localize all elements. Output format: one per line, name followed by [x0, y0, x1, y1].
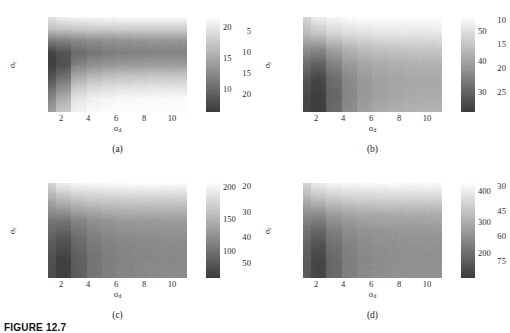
xtick-d-1: 4	[332, 280, 354, 289]
ylabel-b: σr	[263, 59, 285, 71]
cbar-c-tick-0: 200	[223, 183, 253, 192]
colorbar-a	[206, 17, 220, 112]
xtick-c-0: 2	[50, 280, 72, 289]
ytick-b-1-label: 15	[497, 40, 510, 49]
ytick-c-2-label: 40	[242, 233, 255, 242]
cbar-d-tick-1: 300	[478, 218, 508, 227]
colorbar-c	[206, 183, 220, 278]
xtick-c-4: 10	[161, 280, 183, 289]
ytick-d-2-label: 60	[497, 232, 510, 241]
colorbar-d	[461, 183, 475, 278]
xtick-b-4: 10	[416, 114, 438, 123]
panel-a-tag: (a)	[48, 144, 187, 154]
ylabel-c-sub: r	[11, 228, 17, 230]
xlabel-a: σd	[48, 124, 187, 135]
ylabel-d: σr	[263, 225, 285, 237]
heatmap-a-canvas	[48, 17, 187, 112]
ytick-b-0-label: 10	[497, 16, 510, 25]
ylabel-a-sub: r	[11, 62, 17, 64]
xtick-d-0: 2	[305, 280, 327, 289]
ytick-a-2-label: 15	[242, 69, 255, 78]
ylabel-c: σr	[8, 225, 30, 237]
panel-d-tag: (d)	[303, 310, 442, 320]
heatmap-c-canvas	[48, 183, 187, 278]
heatmap-a	[48, 17, 187, 112]
xlabel-b: σd	[303, 124, 442, 135]
xtick-b-1: 4	[332, 114, 354, 123]
ylabel-d-sub: r	[266, 228, 272, 230]
xlabel-d-sub: d	[373, 293, 376, 299]
cbar-a-tick-0: 20	[223, 23, 253, 32]
xlabel-a-sub: d	[118, 127, 121, 133]
xtick-d-2: 6	[360, 280, 382, 289]
xtick-a-2: 6	[105, 114, 127, 123]
xtick-a-3: 8	[133, 114, 155, 123]
xtick-a-1: 4	[77, 114, 99, 123]
heatmap-d	[303, 183, 442, 278]
xtick-a-4: 10	[161, 114, 183, 123]
ylabel-b-sub: r	[266, 62, 272, 64]
panel-d: 30 45 60 75 σr 2 4 6 8 10 σd 400 300 200…	[255, 166, 510, 332]
heatmap-b-canvas	[303, 17, 442, 112]
xtick-b-2: 6	[360, 114, 382, 123]
xtick-c-2: 6	[105, 280, 127, 289]
colorbar-b	[461, 17, 475, 112]
xlabel-b-sub: d	[373, 127, 376, 133]
xlabel-d: σd	[303, 290, 442, 301]
heatmap-b	[303, 17, 442, 112]
xtick-c-3: 8	[133, 280, 155, 289]
ylabel-a: σr	[8, 59, 30, 71]
cbar-b-tick-2: 30	[478, 88, 508, 97]
panel-b: 10 15 20 25 σr 2 4 6 8 10 σd 50 40 30 (b…	[255, 0, 510, 166]
panel-b-tag: (b)	[303, 144, 442, 154]
xlabel-c: σd	[48, 290, 187, 301]
colorbar-d-gradient	[461, 183, 475, 278]
ytick-d-3-label: 75	[497, 257, 510, 266]
xtick-a-0: 2	[50, 114, 72, 123]
cbar-c-tick-2: 100	[223, 247, 253, 256]
xlabel-c-sub: d	[118, 293, 121, 299]
cbar-c-tick-1: 150	[223, 215, 253, 224]
cbar-a-tick-2: 10	[223, 85, 253, 94]
xtick-b-3: 8	[388, 114, 410, 123]
panel-a: 5 10 15 20 σr 2 4 6 8 10 σd 20 15 10 (a)	[0, 0, 255, 166]
cbar-b-tick-1: 40	[478, 57, 508, 66]
panel-c-tag: (c)	[48, 310, 187, 320]
cbar-d-tick-2: 200	[478, 249, 508, 258]
colorbar-b-gradient	[461, 17, 475, 112]
colorbar-c-gradient	[206, 183, 220, 278]
cbar-d-tick-0: 400	[478, 187, 508, 196]
cbar-b-tick-0: 50	[478, 27, 508, 36]
cbar-a-tick-1: 15	[223, 54, 253, 63]
xtick-b-0: 2	[305, 114, 327, 123]
panel-c: 20 30 40 50 σr 2 4 6 8 10 σd 200 150 100…	[0, 166, 255, 332]
xtick-c-1: 4	[77, 280, 99, 289]
xtick-d-3: 8	[388, 280, 410, 289]
heatmap-c	[48, 183, 187, 278]
xtick-d-4: 10	[416, 280, 438, 289]
figure-container: 5 10 15 20 σr 2 4 6 8 10 σd 20 15 10 (a)…	[0, 0, 510, 333]
colorbar-a-gradient	[206, 17, 220, 112]
ytick-c-3-label: 50	[242, 259, 255, 268]
ytick-d-1-label: 45	[497, 207, 510, 216]
heatmap-d-canvas	[303, 183, 442, 278]
figure-caption: FIGURE 12.7	[4, 322, 66, 333]
